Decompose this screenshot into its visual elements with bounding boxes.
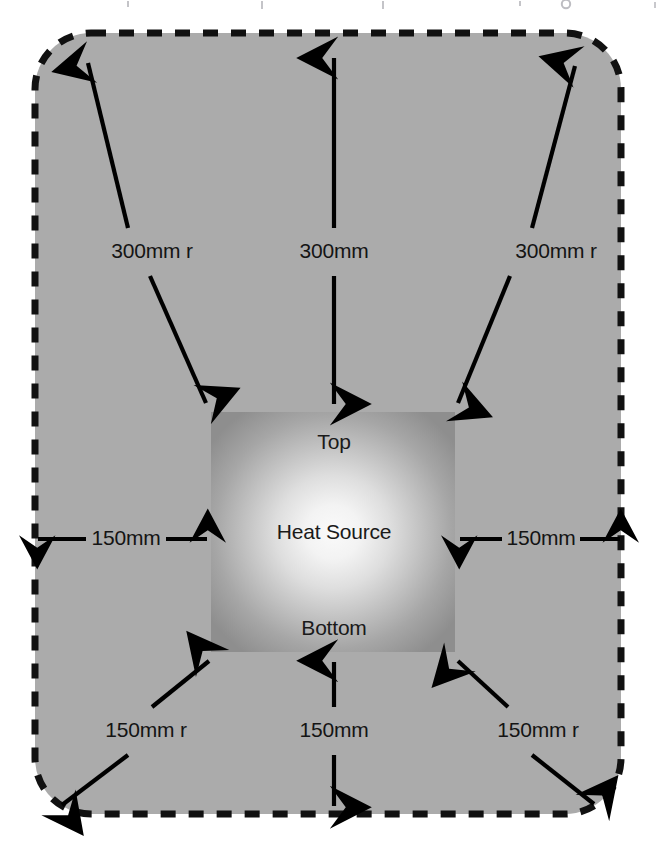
label-bottom-center: 150mm bbox=[299, 718, 368, 741]
label-bottom-left: 150mm r bbox=[105, 718, 187, 741]
label-top-center: 300mm bbox=[299, 239, 368, 262]
label-bottom-right: 150mm r bbox=[497, 718, 579, 741]
heat-source-center-label: Heat Source bbox=[277, 520, 392, 543]
diagram-canvas: 300mm r 300mm 300mm r 150mm 150mm bbox=[0, 0, 656, 847]
label-right: 150mm bbox=[506, 526, 575, 549]
label-top-right: 300mm r bbox=[515, 239, 597, 262]
label-top-left: 300mm r bbox=[111, 239, 193, 262]
cropped-text-row bbox=[0, 0, 656, 14]
heat-source-bottom-label: Bottom bbox=[301, 616, 366, 639]
label-left: 150mm bbox=[91, 526, 160, 549]
heat-source-top-label: Top bbox=[317, 430, 350, 453]
heat-source-clearance-diagram: 300mm r 300mm 300mm r 150mm 150mm bbox=[0, 0, 656, 847]
